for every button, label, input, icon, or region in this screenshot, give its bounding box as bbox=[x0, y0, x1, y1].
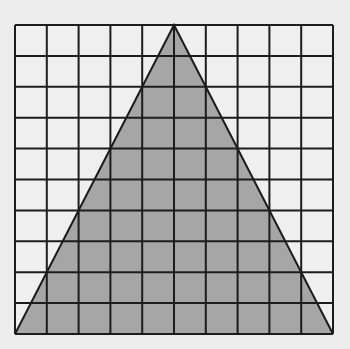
grid-triangle-diagram bbox=[0, 0, 350, 349]
